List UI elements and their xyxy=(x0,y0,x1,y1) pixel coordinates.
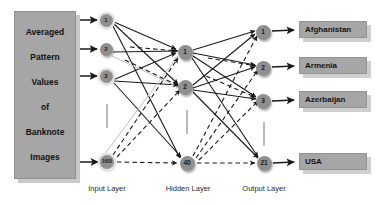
hidden-layer-ellipsis xyxy=(186,110,188,134)
input-block-line-1: Pattern xyxy=(30,53,59,62)
output-node-3-label: 3 xyxy=(261,98,265,105)
class-label-afghanistan: Afghanistan xyxy=(300,25,351,34)
caption-input-layer: Input Layer xyxy=(78,184,136,193)
input-layer-ellipsis xyxy=(106,104,108,128)
output-layer-ellipsis xyxy=(263,122,265,146)
output-node-2-label: 2 xyxy=(261,65,265,72)
caption-output-layer: Output Layer xyxy=(233,184,295,193)
output-node-2[interactable]: 2 xyxy=(256,61,271,76)
input-node-1[interactable]: 1 xyxy=(100,14,113,27)
hidden-node-2-label: 2 xyxy=(183,84,187,91)
input-block-line-2: Values xyxy=(32,78,59,87)
output-node-1[interactable]: 1 xyxy=(256,25,271,40)
output-node-21-label: 21 xyxy=(260,160,267,167)
output-node-3[interactable]: 3 xyxy=(256,94,271,109)
edge-group-block-to-input xyxy=(78,20,98,162)
input-block-line-0: Averaged xyxy=(26,28,64,37)
input-description-block: Averaged Pattern Values of Banknote Imag… xyxy=(14,11,76,179)
class-label-armenia: Armenia xyxy=(300,61,337,70)
output-node-1-label: 1 xyxy=(261,29,265,36)
hidden-node-1-label: 1 xyxy=(183,49,187,56)
input-node-2[interactable]: 2 xyxy=(100,43,113,56)
class-box-usa[interactable]: USA xyxy=(299,153,367,170)
class-label-azerbaijan: Azerbaijan xyxy=(300,95,345,104)
diagram-canvas: Averaged Pattern Values of Banknote Imag… xyxy=(0,0,375,206)
class-label-usa: USA xyxy=(300,157,322,166)
input-node-3-label: 3 xyxy=(104,73,107,79)
input-block-line-4: Banknote xyxy=(26,128,65,137)
edge-group-input-to-hidden-faint xyxy=(104,56,180,155)
hidden-node-2[interactable]: 2 xyxy=(178,80,193,95)
input-node-1600-label: 1600 xyxy=(102,160,112,165)
class-box-afghanistan[interactable]: Afghanistan xyxy=(299,21,367,38)
class-box-azerbaijan[interactable]: Azerbaijan xyxy=(299,91,367,108)
caption-hidden-layer: Hidden Layer xyxy=(157,184,219,193)
class-box-armenia[interactable]: Armenia xyxy=(299,57,367,74)
edge-group-output-to-class xyxy=(272,30,294,163)
hidden-node-40-label: 40 xyxy=(183,160,190,167)
output-node-21[interactable]: 21 xyxy=(257,156,272,171)
input-node-1-label: 1 xyxy=(104,17,107,23)
hidden-node-40[interactable]: 40 xyxy=(180,156,195,171)
input-node-2-label: 2 xyxy=(104,46,107,52)
hidden-node-1[interactable]: 1 xyxy=(178,45,193,60)
input-block-line-3: of xyxy=(41,103,49,112)
input-block-line-5: Images xyxy=(30,153,59,162)
input-node-3[interactable]: 3 xyxy=(100,70,113,83)
edge-group-input-to-hidden-solid xyxy=(113,22,181,158)
input-node-1600[interactable]: 1600 xyxy=(100,155,114,169)
